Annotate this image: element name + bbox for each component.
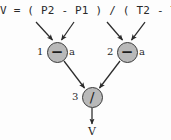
wire-p1-to-node1 <box>62 22 75 40</box>
node-1-subtract[interactable]: − <box>47 42 68 63</box>
node-3-index-label: 3 <box>72 92 78 102</box>
wire-node1-to-node3 <box>64 61 85 88</box>
wire-node2-to-node3 <box>100 61 121 88</box>
output-label: V <box>88 126 96 137</box>
wire-t1-to-node2 <box>132 22 146 40</box>
node-1-index-label: 1 <box>37 47 43 57</box>
node-3-divide[interactable]: / <box>82 87 103 108</box>
wire-p2-to-node1 <box>36 22 53 40</box>
divide-operator-icon: / <box>83 88 102 107</box>
node-1-port-label: a <box>69 47 75 57</box>
dataflow-diagram: V = ( P2 - P1 ) / ( T2 - T1 ) − 1 a − 2 … <box>0 0 171 140</box>
node-2-subtract[interactable]: − <box>117 42 138 63</box>
node-2-port-label: a <box>139 47 145 57</box>
minus-operator-icon: − <box>118 43 137 62</box>
wire-t2-to-node2 <box>107 22 123 40</box>
minus-operator-icon: − <box>48 43 67 62</box>
node-2-index-label: 2 <box>107 47 113 57</box>
connector-wires <box>0 0 171 140</box>
